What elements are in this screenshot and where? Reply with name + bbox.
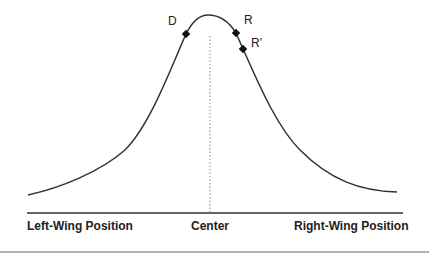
label-r-prime: R' [251, 36, 262, 50]
left-wing-label: Left-Wing Position [27, 219, 133, 233]
distribution-diagram [0, 0, 429, 255]
marker-r [232, 29, 240, 37]
right-wing-label: Right-Wing Position [294, 219, 409, 233]
distribution-curve [28, 15, 397, 195]
marker-r-prime [239, 45, 247, 53]
center-label: Center [191, 219, 229, 233]
label-r: R [244, 13, 253, 27]
marker-d [182, 30, 190, 38]
label-d: D [168, 14, 177, 28]
